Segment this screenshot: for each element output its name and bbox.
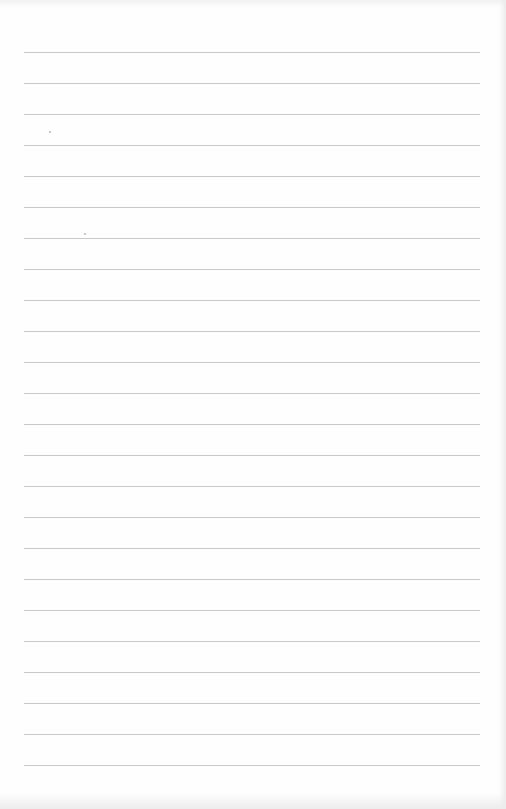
- ruled-line: [24, 424, 480, 425]
- ruled-line: [24, 486, 480, 487]
- top-edge-shadow: [0, 0, 506, 8]
- ruled-line: [24, 52, 480, 53]
- ruled-line: [24, 145, 480, 146]
- ruled-line: [24, 83, 480, 84]
- right-edge-shadow: [499, 0, 506, 809]
- ruled-line: [24, 734, 480, 735]
- ruled-line: [24, 641, 480, 642]
- ruled-line: [24, 176, 480, 177]
- paper-speck: [84, 233, 86, 235]
- ruled-line: [24, 362, 480, 363]
- ruled-line: [24, 548, 480, 549]
- ruled-line: [24, 672, 480, 673]
- bottom-edge-shadow: [0, 793, 506, 809]
- ruled-line: [24, 269, 480, 270]
- ruled-line: [24, 517, 480, 518]
- ruled-line: [24, 703, 480, 704]
- paper-speck: [49, 131, 51, 133]
- ruled-line: [24, 300, 480, 301]
- ruled-line: [24, 579, 480, 580]
- ruled-line: [24, 610, 480, 611]
- ruled-line: [24, 455, 480, 456]
- ruled-line: [24, 393, 480, 394]
- lined-paper-page: [0, 0, 506, 809]
- ruled-line: [24, 114, 480, 115]
- ruled-line: [24, 207, 480, 208]
- ruled-line: [24, 238, 480, 239]
- ruled-line: [24, 331, 480, 332]
- ruled-line: [24, 765, 480, 766]
